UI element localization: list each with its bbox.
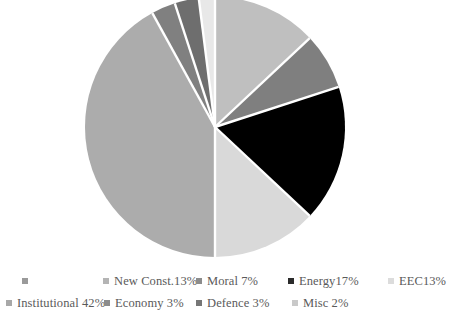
legend-row-2: Institutional 42%Economy 3%Defence 3%Mis… (0, 292, 456, 314)
legend-item-blank-1-1[interactable] (22, 270, 33, 292)
chart-legend: New Const.13%Moral 7%Energy17%EEC13% Ins… (0, 266, 456, 325)
legend-swatch-icon (288, 278, 294, 284)
legend-item-label: Institutional 42% (17, 296, 105, 310)
pie-chart-figure: New Const.13%Moral 7%Energy17%EEC13% Ins… (0, 0, 456, 325)
legend-row-1: New Const.13%Moral 7%Energy17%EEC13% (0, 270, 456, 292)
legend-swatch-icon (196, 278, 202, 284)
legend-item-label: Economy 3% (115, 296, 184, 310)
legend-item-label: Energy17% (299, 274, 359, 288)
legend-swatch-icon (103, 278, 109, 284)
legend-item-label: EEC13% (399, 274, 446, 288)
legend-item-label: Moral 7% (207, 274, 258, 288)
legend-swatch-icon (6, 300, 12, 306)
legend-item-eec13[interactable]: EEC13% (388, 270, 446, 292)
legend-item-label: Misc 2% (303, 296, 349, 310)
legend-item-defence-3[interactable]: Defence 3% (196, 292, 269, 314)
legend-item-energy17[interactable]: Energy17% (288, 270, 359, 292)
legend-swatch-icon (388, 278, 394, 284)
pie-svg (0, 0, 456, 262)
legend-item-label: Defence 3% (207, 296, 269, 310)
legend-item-institutional-42[interactable]: Institutional 42% (6, 292, 105, 314)
legend-swatch-icon (292, 300, 298, 306)
pie-plot-area (0, 0, 456, 262)
legend-item-new-const-13[interactable]: New Const.13% (103, 270, 197, 292)
legend-swatch-icon (196, 300, 202, 306)
legend-swatch-icon (22, 278, 28, 284)
legend-swatch-icon (104, 300, 110, 306)
legend-item-moral-7[interactable]: Moral 7% (196, 270, 258, 292)
legend-item-economy-3[interactable]: Economy 3% (104, 292, 184, 314)
legend-item-label: New Const.13% (114, 274, 197, 288)
legend-item-misc-2[interactable]: Misc 2% (292, 292, 349, 314)
